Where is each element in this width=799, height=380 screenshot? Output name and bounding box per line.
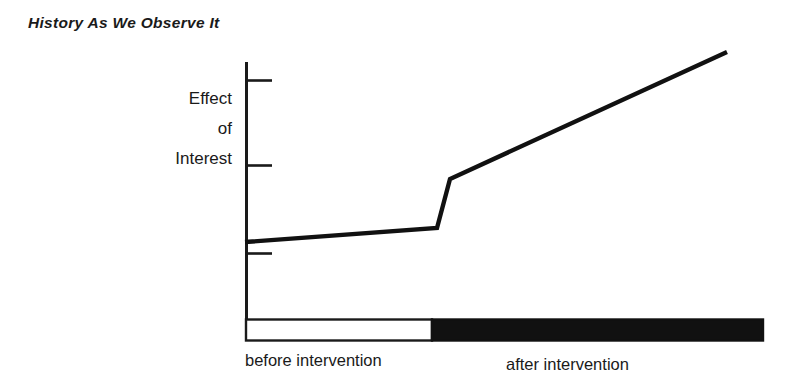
x-axis-label-before-intervention: before intervention bbox=[245, 351, 382, 370]
period-bar-before bbox=[246, 320, 432, 341]
plot-area bbox=[0, 0, 799, 380]
series-line-effect-of-interest bbox=[245, 52, 727, 242]
chart-figure: History As We Observe It Effect of Inter… bbox=[0, 0, 799, 380]
x-axis-label-after-intervention: after intervention bbox=[506, 355, 629, 374]
period-bar-after bbox=[432, 320, 763, 341]
